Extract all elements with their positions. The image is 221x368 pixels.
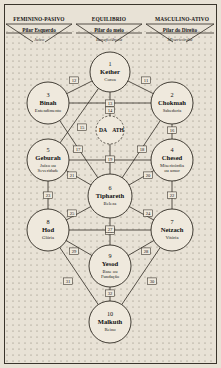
sephira-name: Kether [100,68,120,75]
sephira-name: Yesod [102,260,119,267]
sephira-number: 10 [107,310,113,317]
sephira-malkuth[interactable]: 10MalkuthReino [89,301,131,343]
path-number-28: 28 [144,249,149,254]
tree-graphic: DAATH 1KetherCoroa2ChokmahSabedoria3Bina… [0,0,221,368]
path-number-17: 17 [76,147,81,152]
path-number-31: 31 [66,279,71,284]
sephira-subtitle: Entendimento [35,108,62,113]
sephira-subtitle: Sabedoria [163,108,183,113]
path-number-16: 16 [170,128,175,133]
sephira-name: Tiphareth [96,192,125,199]
sephira-subtitle: Coroa [104,77,116,82]
sephira-netzach[interactable]: 7NetzachVitória [151,209,193,251]
sephira-number: 9 [108,252,111,259]
path-number-20: 20 [146,173,151,178]
path-number-30: 30 [150,279,155,284]
sephira-number: 4 [170,146,173,153]
sephira-number: 3 [46,91,49,98]
path-number-32: 32 [108,291,113,296]
path-number-14: 14 [108,108,113,113]
path-number-29: 29 [72,249,77,254]
sephira-number: 8 [46,218,49,225]
sephira-subtitle: Glória [42,235,55,240]
sephira-number: 5 [46,146,49,153]
sephira-hod[interactable]: 8HodGlória [27,209,69,251]
sephira-number: 7 [170,218,173,225]
sephira-kether[interactable]: 1KetherCoroa [90,52,130,92]
path-number-13: 13 [108,101,113,106]
sephira-binah[interactable]: 3BinahEntendimento [27,82,69,124]
path-number-27: 27 [108,227,113,232]
sephira-name: Chesed [162,154,183,161]
daath-label-left: DA [99,127,107,133]
sephira-subtitle: Vitória [166,235,180,240]
sephira-name: Geburah [35,154,61,161]
path-number-25: 25 [70,211,75,216]
path-number-23: 23 [46,193,51,198]
sephira-subtitle: Reino [104,327,116,332]
path-number-18: 18 [140,147,145,152]
sephira-subtitle: Beleza [104,201,118,206]
sephira-subtitle: ou amor [164,168,180,173]
sephira-name: Malkuth [98,318,123,325]
sephira-subtitle: Fundação [101,274,120,279]
path-number-15: 15 [80,125,85,130]
tree-of-life-diagram: FEMININO-PASIVO EQUILIBRIO MASCULINO-ATI… [0,0,221,368]
sephira-number: 2 [170,91,173,98]
sephira-tiphareth[interactable]: 6TipharethBeleza [88,174,132,218]
path-number-19: 19 [108,157,113,162]
sephira-yesod[interactable]: 9YesodBase ouFundação [89,245,131,287]
sephira-number: 1 [108,60,111,67]
path-number-11: 11 [144,78,149,83]
sephira-name: Netzach [161,226,184,233]
path-number-22: 22 [170,193,175,198]
sephira-number: 6 [108,184,111,191]
sephira-subtitle: Severidade [38,168,59,173]
path-number-21: 21 [70,173,75,178]
sephira-chesed[interactable]: 4ChesedMisericórdiaou amor [151,139,193,181]
sephira-name: Binah [40,99,57,106]
path-number-12: 12 [72,78,77,83]
daath-label-right: ATH [112,127,124,133]
sephira-name: Hod [42,226,54,233]
sephira-chokmah[interactable]: 2ChokmahSabedoria [151,82,193,124]
sephira-name: Chokmah [158,99,186,106]
sephira-geburah[interactable]: 5GeburahJuízo ouSeveridade [27,139,69,181]
path-number-24: 24 [146,211,151,216]
